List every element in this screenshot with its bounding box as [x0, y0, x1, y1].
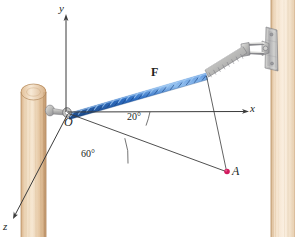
force-label: F	[151, 66, 158, 78]
point-a-marker	[224, 169, 230, 175]
axis-label-y: y	[59, 3, 64, 14]
angle-label-60: 60°	[81, 149, 95, 159]
axis-label-z: z	[3, 221, 7, 232]
arc-20	[146, 112, 150, 126]
diagram-svg	[0, 0, 295, 237]
point-a-label: A	[232, 165, 239, 177]
angle-label-20: 20°	[127, 112, 141, 122]
left-post	[21, 84, 46, 237]
arc-60	[125, 138, 128, 163]
drop-line	[207, 76, 227, 171]
turnbuckle	[205, 41, 269, 77]
origin-label: O	[64, 116, 73, 128]
axis-label-x: x	[250, 103, 255, 114]
figure-canvas: y x z O A F 20° 60°	[0, 0, 295, 237]
